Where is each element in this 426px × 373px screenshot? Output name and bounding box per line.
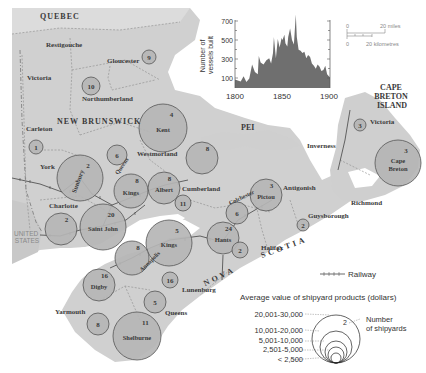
- shipyard-circle-digby: 16Digby: [83, 269, 115, 301]
- shipyard-circle-guysborough: 2: [297, 219, 309, 231]
- shipbuilding-map: 91014Kent2Sunbury688Kings8Albert11220Sai…: [0, 0, 426, 373]
- shipyard-count: 9: [147, 54, 151, 62]
- inset-chart: Number of vessels built 700 500 300 100 …: [199, 14, 338, 101]
- shipyard-circle-kings-nb: 8Kings: [114, 174, 148, 208]
- chart-xtick-1900: 1900: [320, 92, 338, 101]
- shipyard-count: 6: [235, 210, 239, 218]
- county-label: Guysborough: [308, 212, 349, 220]
- shipyard-count: 8: [135, 177, 139, 185]
- shipyard-count: 5: [153, 299, 157, 307]
- scale-miles-label: 20 miles: [380, 23, 401, 29]
- region-label-cape: CAPE: [380, 83, 402, 92]
- region-label-pei: PEI: [241, 123, 254, 132]
- county-label: Restigouche: [46, 41, 82, 49]
- region-label-united-states: UNITED STATES: [14, 230, 40, 244]
- shipyard-circle-halifax: 2: [232, 242, 248, 258]
- chart-xtick-1800: 1800: [226, 92, 244, 101]
- shipyard-count: 8: [206, 145, 210, 153]
- region-label-states: STATES: [15, 237, 40, 244]
- shipyard-circle-pictou: 3Pictou: [250, 179, 282, 211]
- scale-miles-zero: 0: [346, 23, 349, 29]
- shipyard-count: 2: [65, 216, 69, 224]
- shipyard-circle-westmorland: 8: [186, 142, 218, 174]
- county-label: Cumberland: [182, 185, 220, 193]
- shipyard-count: 2: [238, 247, 242, 255]
- shipyard-count: 8: [136, 244, 140, 252]
- shipyard-county-name: CapeBreton: [388, 157, 407, 172]
- shipyard-circle-lunenburg: 16: [162, 272, 178, 288]
- shipyard-count: 6: [115, 152, 119, 160]
- legend-of-shipyards-label: of shipyards: [366, 324, 407, 333]
- county-label: Inverness: [307, 142, 336, 150]
- shipyard-circle-sunbury: 2Sunbury: [57, 155, 103, 201]
- shipyard-circle-gloucester: 9: [142, 50, 156, 64]
- chart-ylabel-line1: Number of: [199, 40, 206, 73]
- shipyard-circle-albert: 8Albert: [148, 172, 180, 204]
- shipyard-count: 16: [101, 272, 109, 280]
- scale-km-label: 20 kilometres: [366, 41, 399, 47]
- shipyard-count: 2: [301, 222, 305, 230]
- scale-km-zero: 0: [346, 41, 349, 47]
- shipyard-circle-queens-ns: 5: [144, 291, 166, 313]
- shipyard-count: 16: [167, 277, 175, 285]
- shipyard-county-name: Kings: [161, 241, 178, 248]
- shipyard-county-name: Albert: [155, 186, 174, 193]
- chart-ytick-100: 100: [221, 75, 233, 82]
- county-label: York: [40, 163, 55, 171]
- shipyard-county-name: Hants: [215, 236, 232, 243]
- shipyard-count: 5: [175, 227, 179, 235]
- county-label: Queens: [165, 309, 187, 317]
- county-label: Richmond: [351, 199, 382, 207]
- shipyard-count: 3: [270, 182, 274, 190]
- chart-ytick-300: 300: [221, 56, 233, 63]
- shipyard-circle-northumberland: 10: [82, 77, 100, 95]
- county-label: Lunenburg: [182, 286, 216, 294]
- shipyard-county-name: Kent: [156, 126, 171, 133]
- shipyard-county-name: Shelburne: [123, 334, 152, 341]
- legend-class-5001-10000: 5,001-10,000: [259, 336, 303, 345]
- county-label: Westmorland: [137, 150, 178, 158]
- shipyard-county-name: Saint John: [88, 225, 118, 232]
- railway-legend-label: Railway: [348, 270, 376, 279]
- shipyard-count: 11: [180, 200, 187, 208]
- region-label-united: UNITED: [14, 230, 39, 237]
- chart-ytick-500: 500: [221, 37, 233, 44]
- shipyard-circle-saint-john: 20Saint John: [80, 204, 126, 250]
- shipyard-count: 2: [86, 162, 90, 170]
- county-label: Victoria: [370, 118, 395, 126]
- shipyard-circle-yarmouth: 8: [87, 313, 109, 335]
- chart-ylabel: Number of vessels built: [199, 36, 214, 74]
- shipyard-circle-charlotte: 2: [45, 213, 77, 245]
- chart-xtick-1850: 1850: [273, 92, 291, 101]
- shipyard-count: 3: [404, 147, 408, 155]
- shipyard-circle-kent: 4Kent: [139, 104, 187, 152]
- shipyard-county-name: Pictou: [257, 193, 275, 200]
- shipyard-count: 20: [108, 211, 116, 219]
- circle-shape: [45, 213, 77, 245]
- legend-title: Average value of shipyard products (doll…: [240, 293, 397, 302]
- legend-class-10001-20000: 10,001-20,000: [255, 326, 303, 335]
- county-label: Northumberland: [82, 95, 133, 103]
- region-label-new-brunswick: NEW BRUNSWICK: [57, 117, 141, 126]
- county-label: Halifax: [261, 244, 284, 252]
- region-label-quebec: QUEBEC: [40, 12, 80, 21]
- shipyard-circle-cumberland: 11: [175, 195, 191, 211]
- shipyard-count: 8: [168, 175, 172, 183]
- legend-number-label: Number: [366, 315, 393, 324]
- county-label: Gloucester: [107, 57, 139, 65]
- shipyard-circle-carleton: 1: [29, 140, 43, 154]
- shipyard-count: 10: [88, 83, 96, 91]
- chart-ytick-700: 700: [221, 18, 233, 25]
- shipyard-count: 8: [96, 321, 100, 329]
- shipyard-count: 11: [142, 319, 149, 327]
- region-label-island: ISLAND: [377, 101, 407, 110]
- shipyard-count: 1: [34, 144, 38, 152]
- legend-class-under-2500: < 2,500: [278, 355, 303, 364]
- county-label: Victoria: [27, 74, 52, 82]
- region-label-breton: BRETON: [374, 92, 408, 101]
- county-label: Charlotte: [49, 202, 78, 210]
- shipyard-count: 24: [225, 225, 233, 233]
- shipyard-circle-shelburne: 11Shelburne: [113, 312, 161, 360]
- shipyard-circle-victoria-cb: 3: [354, 119, 366, 131]
- chart-ylabel-line2: vessels built: [207, 36, 214, 74]
